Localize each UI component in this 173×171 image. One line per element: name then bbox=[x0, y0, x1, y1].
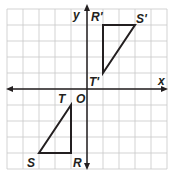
vertex-label-r-prime: R' bbox=[91, 10, 104, 24]
x-axis-label: x bbox=[157, 74, 166, 88]
vertex-label-r: R bbox=[73, 156, 82, 170]
y-axis-label: y bbox=[72, 8, 81, 22]
coordinate-plane: x y O R' S' T' T S R bbox=[0, 0, 173, 171]
vertex-label-s: S bbox=[27, 156, 35, 170]
vertex-label-s-prime: S' bbox=[136, 12, 148, 26]
vertex-label-t: T bbox=[58, 92, 67, 106]
y-axis-up-arrow-icon bbox=[84, 4, 90, 11]
axes bbox=[6, 4, 168, 170]
vertex-label-t-prime: T' bbox=[89, 75, 100, 89]
origin-label: O bbox=[76, 92, 86, 106]
